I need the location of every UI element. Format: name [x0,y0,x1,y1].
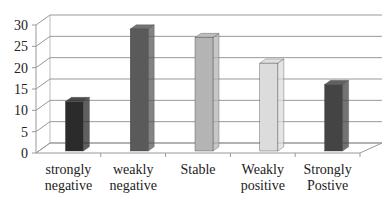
bar-side [278,59,284,151]
bars [65,25,348,151]
bar [195,33,219,151]
bar-front [65,102,83,151]
bar [260,59,284,151]
bar [325,80,349,151]
bar [65,97,89,151]
x-tick-label: weaklynegative [109,162,156,193]
bar-front [260,63,278,151]
gridline-side [36,15,50,25]
x-tick-label-line: Strongly [303,162,351,177]
y-tick-label: 30 [14,18,28,33]
x-tick-label-line: Weakly [242,162,284,177]
y-axis: 051015202530 [14,18,36,161]
x-tick-label-line: positive [241,178,285,193]
x-tick-label-line: strongly [45,162,91,177]
gridline-side [36,100,50,110]
bar-side [343,80,349,151]
bar-side [148,25,154,151]
y-tick-label: 0 [21,146,28,161]
y-tick-label: 25 [14,39,28,54]
bar [130,25,154,151]
gridline-side [36,58,50,68]
bar-side [83,97,89,151]
x-tick-label: StronglyPostive [303,162,351,193]
gridline-side [36,122,50,132]
y-tick-label: 20 [14,61,28,76]
gridline-side [36,36,50,46]
x-tick-label-line: Postive [307,178,348,193]
x-tick-label-line: negative [45,178,92,193]
chart: 051015202530 stronglynegativeweaklynegat… [0,0,387,203]
bar-front [130,29,148,151]
bar-front [325,85,343,152]
x-axis: stronglynegativeweaklynegativeStableWeak… [45,153,360,193]
y-tick-label: 10 [14,103,28,118]
x-tick-label: stronglynegative [45,162,92,193]
x-tick-label-line: Stable [181,162,216,177]
x-tick-label: Stable [181,162,216,177]
bar-side [213,33,219,151]
y-tick-label: 5 [21,125,28,140]
y-tick-label: 15 [14,82,28,97]
bar-front [195,38,213,151]
x-tick-label: Weaklypositive [241,162,285,193]
gridline-side [36,79,50,89]
gridline-side [36,143,50,153]
x-tick-label-line: weakly [113,162,153,177]
x-tick-label-line: negative [109,178,156,193]
